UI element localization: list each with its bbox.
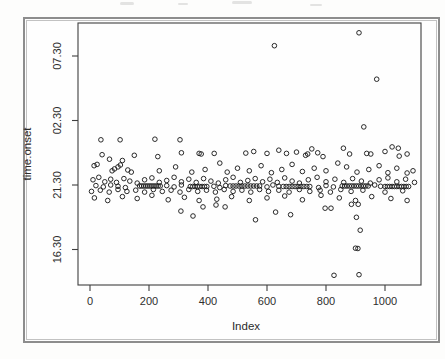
data-point <box>132 153 137 158</box>
data-point <box>290 162 295 167</box>
data-point <box>203 167 208 172</box>
data-point <box>386 176 391 181</box>
data-point <box>308 189 313 194</box>
data-point <box>214 203 219 208</box>
data-point <box>259 163 264 168</box>
data-point <box>187 177 192 182</box>
data-point <box>246 178 251 183</box>
data-point <box>321 154 326 159</box>
data-point <box>323 206 328 211</box>
data-point <box>108 183 113 188</box>
data-point <box>332 273 337 278</box>
data-point <box>215 197 220 202</box>
data-point <box>98 188 103 193</box>
data-point <box>173 165 178 170</box>
data-point <box>166 198 171 203</box>
data-point <box>329 206 334 211</box>
data-point <box>403 177 408 182</box>
data-point <box>89 189 94 194</box>
data-point <box>319 193 324 198</box>
data-point <box>284 151 289 156</box>
data-point <box>374 77 379 82</box>
data-point <box>412 180 417 185</box>
data-point <box>142 190 147 195</box>
data-point <box>172 175 177 180</box>
data-point <box>287 190 292 195</box>
data-point <box>294 150 299 155</box>
data-point <box>315 151 320 156</box>
data-point <box>265 151 270 156</box>
data-point <box>265 185 270 190</box>
data-point <box>120 158 125 163</box>
y-axis-title: time.onset <box>21 127 33 181</box>
data-point <box>247 198 252 203</box>
data-point <box>324 169 329 174</box>
data-point <box>99 138 104 143</box>
data-point <box>169 188 174 193</box>
data-point <box>383 149 388 154</box>
data-point <box>367 167 372 172</box>
data-point <box>405 152 410 157</box>
data-point <box>97 175 102 180</box>
data-point <box>213 190 218 195</box>
data-point <box>282 176 287 181</box>
data-point <box>269 170 274 175</box>
data-point <box>280 167 285 172</box>
data-point <box>405 198 410 203</box>
data-point <box>105 198 110 203</box>
data-point <box>347 152 352 157</box>
data-point <box>164 183 169 188</box>
data-point <box>179 151 184 156</box>
data-point <box>315 175 320 180</box>
data-point <box>150 193 155 198</box>
data-point <box>341 146 346 151</box>
data-point <box>260 180 265 185</box>
data-point <box>333 177 338 182</box>
data-point <box>395 180 400 185</box>
scatter-plot: 0200400600800100016.3021.3002.3007.30 In… <box>0 0 445 359</box>
data-point <box>129 170 134 175</box>
data-point <box>128 179 133 184</box>
data-point <box>190 170 195 175</box>
data-point <box>395 166 400 171</box>
x-axis-title: Index <box>232 320 260 332</box>
data-point <box>103 180 108 185</box>
data-point <box>225 170 230 175</box>
data-point <box>369 194 374 199</box>
data-point <box>377 163 382 168</box>
data-point <box>218 161 223 166</box>
data-point <box>400 189 405 194</box>
data-point <box>383 190 388 195</box>
data-point <box>411 169 416 174</box>
data-point <box>312 166 317 171</box>
data-point <box>223 205 228 210</box>
figure-page: 0200400600800100016.3021.3002.3007.30 In… <box>0 0 445 359</box>
data-point <box>266 189 271 194</box>
data-point <box>268 177 273 182</box>
data-point <box>389 196 394 201</box>
x-tick-label: 400 <box>199 295 217 307</box>
data-point <box>356 202 361 207</box>
data-point <box>191 214 196 219</box>
x-tick-label: 200 <box>140 295 158 307</box>
data-point <box>212 151 217 156</box>
data-point <box>153 137 158 142</box>
data-point <box>100 152 105 157</box>
data-point <box>272 43 277 48</box>
data-point <box>306 178 311 183</box>
data-point <box>349 202 354 207</box>
x-tick-label: 800 <box>317 295 335 307</box>
data-point <box>209 179 214 184</box>
data-point <box>157 169 162 174</box>
data-point <box>308 184 313 189</box>
plot-generated-layer: 0200400600800100016.3021.3002.3007.30 <box>51 23 421 307</box>
data-point <box>178 138 183 143</box>
data-point <box>328 190 333 195</box>
data-point <box>91 178 96 183</box>
data-point <box>300 198 305 203</box>
data-point <box>354 215 359 220</box>
data-point <box>120 194 125 199</box>
data-point <box>357 272 362 277</box>
data-point <box>290 179 295 184</box>
data-point <box>92 196 97 201</box>
